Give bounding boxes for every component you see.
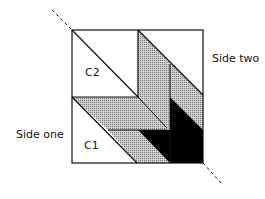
fold-line-bottom xyxy=(203,163,222,184)
label-c1: C1 xyxy=(84,139,99,152)
quilt-diagram: C2 C1 Side two Side one xyxy=(0,0,265,199)
label-side-one: Side one xyxy=(16,128,64,141)
label-side-two: Side two xyxy=(212,52,259,65)
diagram-graphic xyxy=(0,0,265,199)
fold-line-top xyxy=(52,10,72,30)
label-c2: C2 xyxy=(85,66,100,79)
